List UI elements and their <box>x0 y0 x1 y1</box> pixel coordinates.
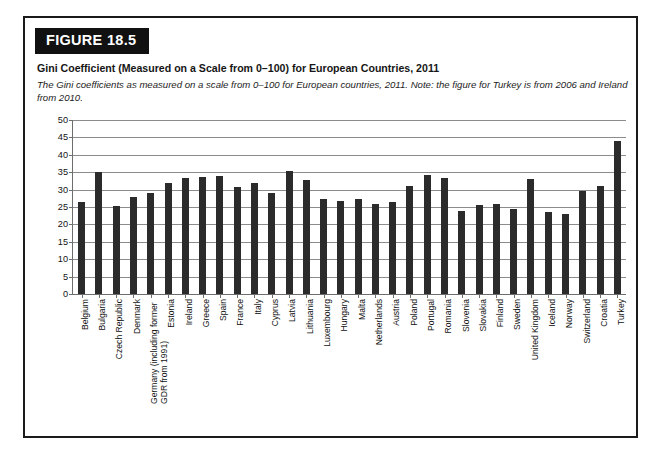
chart-bar[interactable] <box>406 186 413 294</box>
x-label-slot: Austria <box>384 299 401 419</box>
y-axis-tick-label: 25 <box>58 202 68 212</box>
x-label-slot: Germany (including former GDR from 1991) <box>141 299 158 419</box>
chart-bar[interactable] <box>251 183 258 294</box>
x-axis-tick-mark <box>237 294 238 298</box>
x-label-slot: Norway <box>557 299 574 419</box>
x-axis-tick-mark <box>220 294 221 298</box>
x-axis-tick-mark <box>548 294 549 298</box>
bar-slot <box>419 120 436 294</box>
x-label-slot: Croatia <box>591 299 608 419</box>
x-label-slot: Bulgaria <box>89 299 106 419</box>
bar-slot <box>332 120 349 294</box>
x-axis-tick-mark <box>531 294 532 298</box>
bar-slot <box>159 120 176 294</box>
chart-bar-series <box>73 120 626 294</box>
chart-bar[interactable] <box>130 197 137 294</box>
chart-bar[interactable] <box>597 186 604 294</box>
x-label-slot: Denmark <box>124 299 141 419</box>
x-label-slot: Italy <box>245 299 262 419</box>
x-label-slot: Iceland <box>539 299 556 419</box>
x-axis-tick-mark <box>289 294 290 298</box>
chart-bar[interactable] <box>355 199 362 294</box>
bar-slot <box>453 120 470 294</box>
x-label-slot: Greece <box>193 299 210 419</box>
x-axis-tick-mark <box>600 294 601 298</box>
x-label-slot: Latvia <box>280 299 297 419</box>
chart-plot-area: 50454035302520151050 <box>72 120 626 295</box>
x-axis-tick-mark <box>358 294 359 298</box>
x-label-slot: Malta <box>349 299 366 419</box>
chart-bar[interactable] <box>579 191 586 294</box>
bar-slot <box>522 120 539 294</box>
chart-bar[interactable] <box>95 172 102 294</box>
x-axis-tick-mark <box>427 294 428 298</box>
chart-bar[interactable] <box>182 178 189 294</box>
chart-bar[interactable] <box>424 175 431 294</box>
chart-bar[interactable] <box>216 176 223 294</box>
x-axis-tick-mark <box>203 294 204 298</box>
bar-slot <box>367 120 384 294</box>
chart-bar[interactable] <box>510 209 517 294</box>
x-axis-tick-mark <box>116 294 117 298</box>
chart-bar[interactable] <box>476 205 483 294</box>
bar-slot <box>177 120 194 294</box>
chart-bar[interactable] <box>165 183 172 294</box>
x-label-slot: Spain <box>211 299 228 419</box>
chart-bar[interactable] <box>545 212 552 294</box>
y-axis-tick-label: 50 <box>58 115 68 125</box>
bar-slot <box>246 120 263 294</box>
x-axis-tick-mark <box>583 294 584 298</box>
chart-bar[interactable] <box>493 204 500 294</box>
bar-slot <box>90 120 107 294</box>
chart-bar[interactable] <box>527 179 534 294</box>
bar-slot <box>470 120 487 294</box>
x-axis-tick-mark <box>185 294 186 298</box>
chart-bar[interactable] <box>458 211 465 294</box>
x-axis-tick-mark <box>341 294 342 298</box>
chart-bar[interactable] <box>337 201 344 294</box>
y-axis-tick-label: 30 <box>58 185 68 195</box>
y-axis-tick-label: 10 <box>58 254 68 264</box>
chart-x-axis-labels: BelgiumBulgariaCzech RepublicDenmarkGerm… <box>72 299 626 419</box>
chart-bar[interactable] <box>614 141 621 294</box>
x-axis-tick-mark <box>617 294 618 298</box>
chart-bar[interactable] <box>113 206 120 294</box>
chart-bar[interactable] <box>199 177 206 294</box>
chart-bar[interactable] <box>562 214 569 294</box>
x-label-slot: Switzerland <box>574 299 591 419</box>
x-axis-tick-mark <box>566 294 567 298</box>
x-label-slot: Estonia <box>159 299 176 419</box>
x-label-slot: Slovenia <box>453 299 470 419</box>
chart-bar[interactable] <box>303 180 310 294</box>
x-label-slot: France <box>228 299 245 419</box>
x-axis-tick-mark <box>445 294 446 298</box>
x-axis-label: Turkey <box>617 299 627 325</box>
chart-bar[interactable] <box>320 199 327 294</box>
figure-card: FIGURE 18.5 Gini Coefficient (Measured o… <box>23 16 638 438</box>
y-axis-tick-label: 5 <box>63 272 68 282</box>
chart-bar[interactable] <box>268 193 275 294</box>
chart-bar[interactable] <box>286 171 293 294</box>
x-label-slot: Belgium <box>72 299 89 419</box>
chart-bar[interactable] <box>372 204 379 294</box>
bar-slot <box>280 120 297 294</box>
chart-bar[interactable] <box>147 193 154 294</box>
bar-slot <box>229 120 246 294</box>
x-axis-tick-mark <box>496 294 497 298</box>
x-label-slot: Luxembourg <box>314 299 331 419</box>
bar-slot <box>591 120 608 294</box>
x-axis-tick-mark <box>306 294 307 298</box>
chart-bar[interactable] <box>234 187 241 294</box>
chart-bar[interactable] <box>441 178 448 294</box>
x-axis-tick-mark <box>99 294 100 298</box>
bar-slot <box>401 120 418 294</box>
x-axis-tick-mark <box>375 294 376 298</box>
x-label-slot: Finland <box>488 299 505 419</box>
chart-bar[interactable] <box>78 202 85 294</box>
bar-slot <box>436 120 453 294</box>
x-label-slot: Turkey <box>609 299 626 419</box>
chart-bar[interactable] <box>389 202 396 294</box>
x-label-slot: Netherlands <box>366 299 383 419</box>
x-axis-tick-mark <box>479 294 480 298</box>
bar-slot <box>488 120 505 294</box>
